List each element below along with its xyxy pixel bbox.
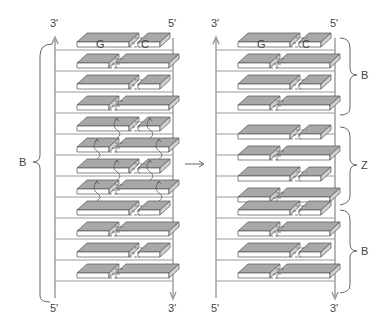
left-bottom-5prime-label: 5′ <box>50 302 58 314</box>
right-brace-b-top <box>340 38 357 115</box>
base-block-left <box>77 222 119 236</box>
base-pair-row <box>55 159 173 180</box>
z-row <box>216 146 340 163</box>
base-block-left <box>77 54 119 68</box>
base-pair-row <box>55 117 173 138</box>
base-block-right <box>138 243 170 257</box>
base-block-right <box>138 117 170 131</box>
base-block-right <box>138 75 170 89</box>
base-pair-row <box>55 243 173 260</box>
base-block-left <box>238 75 300 89</box>
base-block-right <box>299 125 331 139</box>
right-bottom-3prime-label: 3′ <box>330 302 338 314</box>
base-block-right <box>299 75 331 89</box>
base-block-right <box>116 54 179 68</box>
left-base-pair-rows <box>55 33 179 281</box>
base-pair-row <box>55 201 173 218</box>
left-top-3prime-label: 3′ <box>50 17 58 29</box>
right-region-label-b-top: B <box>361 69 368 81</box>
base-block-right <box>138 201 170 215</box>
right-base-label-g: G <box>257 38 266 50</box>
base-pair-row <box>55 264 179 281</box>
base-pair-row <box>216 75 335 92</box>
left-base-label-c: C <box>141 38 149 50</box>
base-pair-row <box>216 222 340 239</box>
base-pair-row <box>55 54 179 71</box>
transition-arrow <box>185 161 204 167</box>
base-block-right <box>116 222 179 236</box>
base-block-left <box>238 264 280 278</box>
base-pair-row <box>216 33 335 50</box>
left-ladder: 3′ 5′ 5′ 3′ B <box>19 17 179 314</box>
base-block-left <box>238 54 280 68</box>
right-brace-z <box>340 127 357 205</box>
z-row <box>216 125 335 142</box>
b-to-z-dna-diagram: 3′ 5′ 5′ 3′ B 3′ 5′ 5′ 3′ B Z B <box>0 0 388 325</box>
base-block-left <box>77 117 139 131</box>
base-block-left <box>238 201 300 215</box>
right-bottom-5prime-label: 5′ <box>211 302 219 314</box>
base-block-right <box>277 264 340 278</box>
base-pair-row <box>55 75 173 92</box>
right-top-3prime-label: 3′ <box>211 17 219 29</box>
base-block-left <box>77 243 139 257</box>
base-pair-row <box>55 180 179 201</box>
base-block-left <box>238 188 280 202</box>
base-block-right <box>116 180 179 194</box>
right-base-label-c: C <box>302 38 310 50</box>
base-pair-row <box>216 264 340 281</box>
base-block-left <box>238 146 280 160</box>
base-block-right <box>299 167 331 181</box>
base-block-left <box>238 243 300 257</box>
base-block-right <box>116 96 179 110</box>
base-block-left <box>238 96 280 110</box>
base-pair-row <box>55 96 179 113</box>
base-block-left <box>77 33 139 47</box>
base-pair-row <box>55 33 173 50</box>
left-top-5prime-label: 5′ <box>168 17 176 29</box>
base-block-left <box>77 75 139 89</box>
base-block-right <box>116 264 179 278</box>
base-block-right <box>277 54 340 68</box>
base-block-left <box>238 222 280 236</box>
base-pair-row <box>216 201 335 218</box>
left-region-brace <box>33 44 52 302</box>
base-pair-row <box>216 96 340 113</box>
left-base-label-g: G <box>96 38 105 50</box>
base-block-right <box>277 96 340 110</box>
left-region-label-b: B <box>19 156 26 168</box>
base-block-left <box>77 159 139 173</box>
base-block-right <box>277 222 340 236</box>
base-block-left <box>77 201 139 215</box>
z-row <box>216 167 335 184</box>
base-pair-row <box>55 222 179 239</box>
base-block-left <box>77 264 119 278</box>
base-block-left <box>238 167 300 181</box>
base-block-right <box>277 146 340 160</box>
base-block-right <box>299 243 331 257</box>
right-region-label-b-bottom: B <box>361 245 368 257</box>
base-block-right <box>299 201 331 215</box>
left-bottom-3prime-label: 3′ <box>168 302 176 314</box>
base-pair-row <box>55 138 179 159</box>
right-ladder: 3′ 5′ 5′ 3′ B Z B <box>211 17 368 314</box>
base-block-right <box>138 159 170 173</box>
base-block-left <box>77 96 119 110</box>
base-block-right <box>277 188 340 202</box>
base-block-left <box>238 125 300 139</box>
base-pair-row <box>216 54 340 71</box>
right-brace-b-bottom <box>340 210 357 293</box>
right-top-5prime-label: 5′ <box>330 17 338 29</box>
right-base-pair-rows <box>216 33 340 281</box>
base-block-left <box>238 33 300 47</box>
base-block-right <box>116 138 179 152</box>
base-pair-row <box>216 243 335 260</box>
right-region-label-z: Z <box>361 159 368 171</box>
